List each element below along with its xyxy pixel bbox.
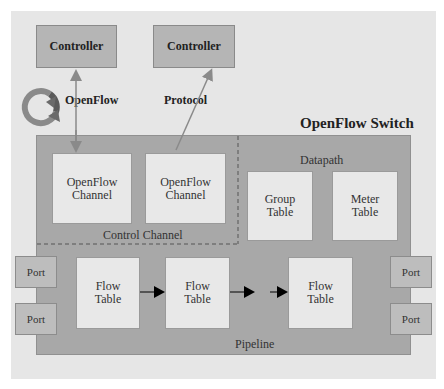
openflow-diagram: Controller Controller OpenFlow Protocol …: [0, 0, 444, 389]
pipeline-arrow-1-head: [154, 286, 165, 298]
pipeline-arrow-2-head: [244, 286, 255, 298]
protocol-link: [176, 71, 211, 150]
pipeline-arrow-3-head: [277, 286, 288, 298]
diagram-connectors: [0, 0, 444, 389]
